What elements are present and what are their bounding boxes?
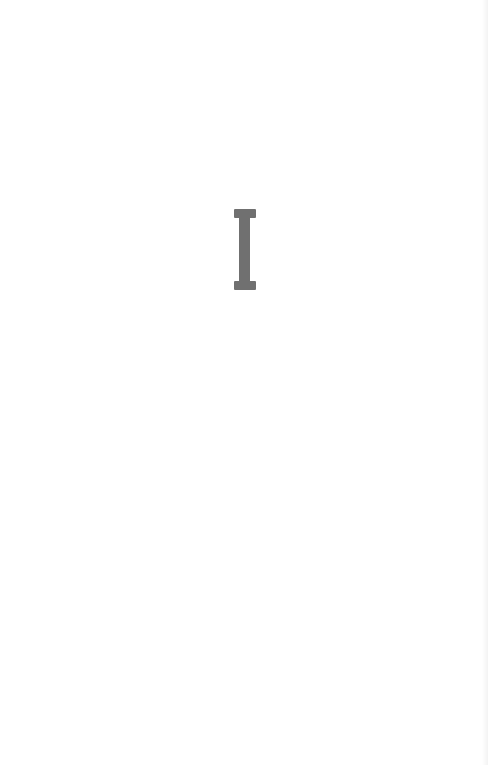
section-numeral: I [234, 209, 256, 290]
numeral-bottom-serif [234, 281, 256, 290]
book-page: I [0, 0, 488, 765]
page-edge-shadow [482, 0, 488, 765]
numeral-stem [239, 217, 250, 282]
